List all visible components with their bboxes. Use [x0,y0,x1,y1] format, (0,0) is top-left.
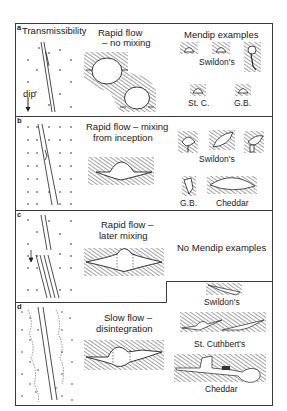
mendip-examples-title: Mendip examples [184,30,258,41]
panel-a [26,42,262,112]
example-label-swildons-a: Swildon's [199,57,235,68]
panel-letter-b: b [17,117,22,125]
no-mendip-examples-label: No Mendip examples [177,243,266,254]
mode-title-b-line1: Rapid flow – mixing [86,122,168,133]
conduit-diagram-d [84,340,164,370]
mode-title-d-line1: Slow flow – [104,313,152,324]
dot-grid-c [27,219,72,291]
dot-grid-b [27,126,72,205]
panel-letter-a: a [17,24,21,32]
mode-title-a-line2: – no mixing [102,38,151,49]
fracture-a [41,42,55,112]
transmissibility-label: Transmissibility [22,26,87,37]
example-label-swildons-d: Swildon's [204,297,240,308]
example-label-st-cuthberts: St. Cuthbert's [194,339,245,350]
conduit-diagram-c [84,248,164,276]
mode-title-b-line2: from inception [93,133,153,144]
mode-title-c-line1: Rapid flow – [101,220,153,231]
example-label-cheddar-d: Cheddar [205,384,238,395]
example-label-gb-b: G.B. [180,198,197,209]
example-label-st-c: St. C. [188,98,209,109]
dot-grid-d [21,311,72,400]
conduit-diagram-a [84,52,156,112]
example-label-swildons-b: Swildon's [199,154,235,165]
example-label-cheddar-b: Cheddar [216,198,249,209]
fracture-b [38,124,58,205]
conduit-diagram-b [88,157,154,185]
mode-title-d-line2: disintegration [96,324,153,335]
mendip-examples-d-swildons [206,283,242,295]
mendip-examples-a [180,42,261,96]
mode-title-c-line2: later mixing [99,231,148,242]
fracture-c [29,215,59,298]
dip-label: dip [23,89,36,100]
fracture-d [28,307,64,402]
panel-letter-d: d [17,303,22,311]
example-label-gb-a: G.B. [234,98,251,109]
panel-letter-c: c [17,211,21,219]
